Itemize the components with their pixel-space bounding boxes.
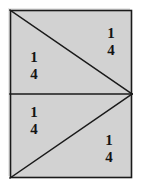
region-label-bottom-right: 1 4 — [96, 133, 122, 165]
region-label-lower-left: 1 4 — [21, 105, 47, 137]
fraction-numerator: 1 — [29, 105, 39, 120]
fraction-denominator: 4 — [29, 122, 39, 137]
region-label-middle-left: 1 4 — [21, 50, 47, 82]
fraction-numerator: 1 — [104, 133, 114, 148]
fraction-diagram: 1 4 1 4 1 4 1 4 — [0, 0, 141, 188]
fraction-denominator: 4 — [106, 43, 116, 58]
fraction-numerator: 1 — [29, 50, 39, 65]
fraction-denominator: 4 — [29, 67, 39, 82]
fraction-numerator: 1 — [106, 26, 116, 41]
fraction-denominator: 4 — [104, 150, 114, 165]
region-label-top-right: 1 4 — [98, 26, 124, 58]
